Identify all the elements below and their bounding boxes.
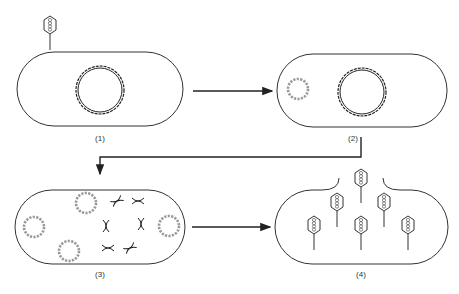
phage-icon xyxy=(331,193,343,227)
phage-icon xyxy=(308,216,320,250)
phage-icon xyxy=(355,216,367,250)
phage-genome xyxy=(288,79,308,99)
bacterial-chromosome xyxy=(76,66,124,114)
panel-1 xyxy=(17,16,183,126)
chromosome-fragment xyxy=(103,220,109,232)
phage-icon xyxy=(402,216,414,250)
panel-3 xyxy=(15,190,185,264)
panel-label-4: (4) xyxy=(356,270,366,279)
phage-icon xyxy=(378,193,390,227)
lytic-cycle-diagram xyxy=(0,0,459,294)
panel-label-2: (2) xyxy=(348,134,358,143)
bacterial-cell xyxy=(17,52,183,126)
phage-genome xyxy=(159,216,179,236)
phage-genome xyxy=(76,193,96,213)
chromosome-fragment xyxy=(132,198,144,204)
chromosome-fragment xyxy=(110,195,123,206)
panel-label-3: (3) xyxy=(95,270,105,279)
phage-genome xyxy=(24,217,44,237)
arrow-2-to-3 xyxy=(100,137,361,174)
chromosome-fragment xyxy=(123,242,136,253)
bacterial-chromosome-strand xyxy=(78,68,122,112)
phage-icon xyxy=(44,16,56,50)
bacterial-chromosome xyxy=(338,68,386,116)
chromosome-fragment xyxy=(138,218,144,230)
panel-2 xyxy=(277,54,447,127)
phage-genome xyxy=(59,241,79,261)
panel-label-1: (1) xyxy=(95,134,105,143)
panel-4 xyxy=(275,169,448,264)
phage-icon xyxy=(355,169,367,203)
chromosome-fragment xyxy=(102,245,114,251)
